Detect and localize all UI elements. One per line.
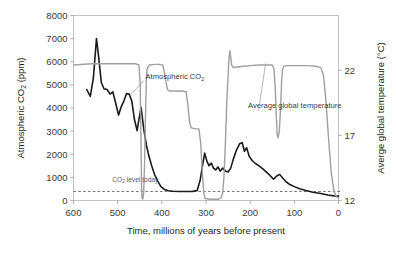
y2-axis-tick-label: 12 [345, 195, 356, 206]
chart-figure: 0100020003000400050006000700080001217226… [0, 0, 396, 254]
y-axis-tick-label: 2000 [46, 149, 67, 160]
y-axis-tick-label: 5000 [46, 79, 67, 90]
x-axis-tick-label: 400 [154, 207, 170, 218]
x-axis-tick-label: 0 [336, 207, 341, 218]
co2-temperature-chart: 0100020003000400050006000700080001217226… [0, 0, 396, 254]
co2-series-annotation: Atmospheric CO2 [145, 72, 204, 82]
y-axis-tick-label: 3000 [46, 126, 67, 137]
x-axis-tick-label: 600 [66, 207, 82, 218]
x-axis-tick-label: 100 [286, 207, 302, 218]
y2-axis-tick-label: 17 [345, 130, 356, 141]
y-axis-tick-label: 6000 [46, 56, 67, 67]
y-axis-tick-label: 1000 [46, 172, 67, 183]
temperature-series-annotation: Average global temperature [248, 101, 342, 110]
x-axis-tick-label: 300 [198, 207, 214, 218]
x-axis-tick-label: 200 [242, 207, 258, 218]
y-axis-tick-label: 0 [62, 195, 67, 206]
y-axis-tick-label: 4000 [46, 102, 67, 113]
y-axis-tick-label: 8000 [46, 10, 67, 21]
y-axis-tick-label: 7000 [46, 33, 67, 44]
x-axis-title: Time, millions of years before present [127, 225, 285, 236]
y2-axis-title: Averge global temperature (°C) [375, 42, 386, 173]
y-axis-title: Atmospheric CO2 (ppm) [15, 58, 27, 159]
y2-axis-tick-label: 22 [345, 65, 356, 76]
x-axis-tick-label: 500 [110, 207, 126, 218]
